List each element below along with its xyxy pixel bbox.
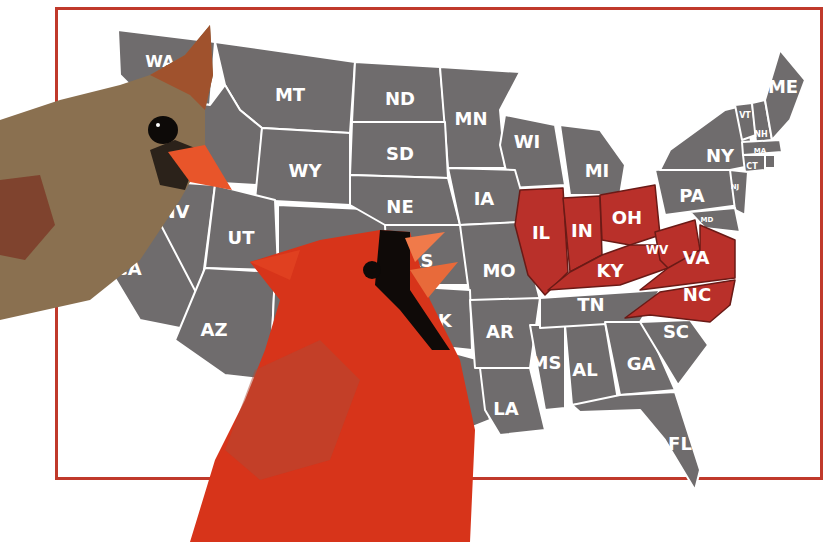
label-mt: MT bbox=[275, 84, 306, 105]
label-fl: FL bbox=[668, 433, 692, 454]
label-la: LA bbox=[493, 398, 518, 419]
cardinal-range-map: WA MT ND MN SD WY WI MI ME NY VT NH MA C… bbox=[0, 0, 838, 542]
label-md: MD bbox=[701, 216, 714, 224]
label-wi: WI bbox=[514, 131, 541, 152]
label-ia: IA bbox=[474, 188, 495, 209]
label-in: IN bbox=[571, 220, 593, 241]
label-il: IL bbox=[532, 222, 550, 243]
label-mn: MN bbox=[455, 108, 488, 129]
label-mi: MI bbox=[585, 160, 610, 181]
label-sd: SD bbox=[386, 143, 414, 164]
label-vt: VT bbox=[739, 111, 751, 120]
label-ma: MA bbox=[754, 147, 767, 155]
label-wv: WV bbox=[646, 243, 669, 257]
label-va: VA bbox=[683, 247, 710, 268]
us-map: WA MT ND MN SD WY WI MI ME NY VT NH MA C… bbox=[0, 0, 838, 542]
label-ct: CT bbox=[746, 162, 758, 171]
label-nh: NH bbox=[754, 130, 767, 139]
label-tn: TN bbox=[577, 294, 604, 315]
state-ri bbox=[765, 155, 775, 168]
label-ar: AR bbox=[486, 321, 514, 342]
label-pa: PA bbox=[679, 185, 705, 206]
state-md bbox=[690, 208, 740, 232]
label-oh: OH bbox=[612, 207, 642, 228]
label-az: AZ bbox=[201, 319, 228, 340]
label-nj: NJ bbox=[731, 183, 739, 191]
label-sc: SC bbox=[663, 321, 689, 342]
label-ms: MS bbox=[531, 352, 562, 373]
label-me: ME bbox=[768, 76, 798, 97]
label-al: AL bbox=[572, 359, 597, 380]
label-ga: GA bbox=[627, 353, 656, 374]
label-ny: NY bbox=[706, 145, 735, 166]
label-mo: MO bbox=[482, 260, 515, 281]
label-ky: KY bbox=[597, 260, 625, 281]
label-nd: ND bbox=[385, 88, 415, 109]
label-nc: NC bbox=[683, 284, 711, 305]
label-ne: NE bbox=[386, 196, 413, 217]
label-ut: UT bbox=[228, 227, 256, 248]
label-wy: WY bbox=[289, 160, 323, 181]
